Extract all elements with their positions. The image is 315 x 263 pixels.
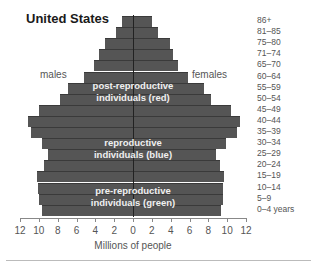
age-label: 81–85 xyxy=(257,26,281,37)
male-bar xyxy=(37,171,133,182)
x-tick-label: 6 xyxy=(69,225,85,236)
age-label: 30–34 xyxy=(257,137,281,148)
x-tick xyxy=(246,218,247,222)
x-tick xyxy=(227,218,228,222)
male-bar xyxy=(44,160,133,171)
age-label: 45–49 xyxy=(257,104,281,115)
x-tick-label: 2 xyxy=(144,225,160,236)
male-bar xyxy=(105,38,133,49)
x-tick-label: 2 xyxy=(106,225,122,236)
x-tick xyxy=(58,218,59,222)
age-label: 35–39 xyxy=(257,126,281,137)
female-bar xyxy=(133,49,173,60)
age-label: 5–9 xyxy=(257,193,271,204)
age-label: 0–4 years xyxy=(257,204,294,215)
age-label: 55–59 xyxy=(257,82,281,93)
divider-line xyxy=(6,260,311,261)
males-label: males xyxy=(40,69,67,80)
male-bar xyxy=(28,116,133,127)
female-bar xyxy=(133,38,170,49)
age-label: 15–19 xyxy=(257,170,281,181)
female-bar xyxy=(133,16,152,27)
reproductive-label: reproductive individuals (blue) xyxy=(63,137,203,161)
male-bar xyxy=(99,49,133,60)
age-label: 65–70 xyxy=(257,59,281,70)
x-tick-label: 4 xyxy=(163,225,179,236)
pre-reproductive-label: pre-reproductive individuals (green) xyxy=(63,185,203,209)
female-bar xyxy=(133,60,178,71)
male-bar xyxy=(116,27,133,38)
x-tick-label: 8 xyxy=(200,225,216,236)
x-tick-label: 0 xyxy=(125,225,141,236)
female-bar xyxy=(133,105,231,116)
age-label: 50–54 xyxy=(257,93,281,104)
x-tick-label: 12 xyxy=(12,225,28,236)
x-tick-label: 4 xyxy=(87,225,103,236)
x-axis-label: Millions of people xyxy=(0,240,266,251)
x-tick-label: 10 xyxy=(31,225,47,236)
female-bar xyxy=(133,160,220,171)
age-label: 40–44 xyxy=(257,115,281,126)
female-bar xyxy=(133,116,240,127)
x-tick xyxy=(114,218,115,222)
age-label: 10–14 xyxy=(257,182,281,193)
age-label: 75–80 xyxy=(257,37,281,48)
x-tick xyxy=(133,218,134,222)
male-bar xyxy=(122,16,133,27)
x-tick-label: 6 xyxy=(182,225,198,236)
age-label: 20–24 xyxy=(257,159,281,170)
female-bar xyxy=(133,27,158,38)
age-label: 60–64 xyxy=(257,71,281,82)
age-label: 71–74 xyxy=(257,48,281,59)
x-tick xyxy=(190,218,191,222)
x-tick xyxy=(39,218,40,222)
age-label: 86+ xyxy=(257,15,271,26)
chart-title: United States xyxy=(26,11,109,26)
male-bar xyxy=(39,105,133,116)
x-tick xyxy=(208,218,209,222)
x-tick xyxy=(95,218,96,222)
x-tick-label: 12 xyxy=(238,225,254,236)
x-tick xyxy=(77,218,78,222)
x-tick xyxy=(152,218,153,222)
age-label: 25–29 xyxy=(257,148,281,159)
population-pyramid-chart: United States males females 86+81–8575–8… xyxy=(0,0,315,263)
x-tick xyxy=(171,218,172,222)
females-label: females xyxy=(192,69,227,80)
post-reproductive-label: post-reproductive individuals (red) xyxy=(63,80,203,104)
female-bar xyxy=(133,171,224,182)
x-tick-label: 8 xyxy=(50,225,66,236)
x-tick xyxy=(20,218,21,222)
x-tick-label: 10 xyxy=(219,225,235,236)
male-bar xyxy=(94,60,133,71)
